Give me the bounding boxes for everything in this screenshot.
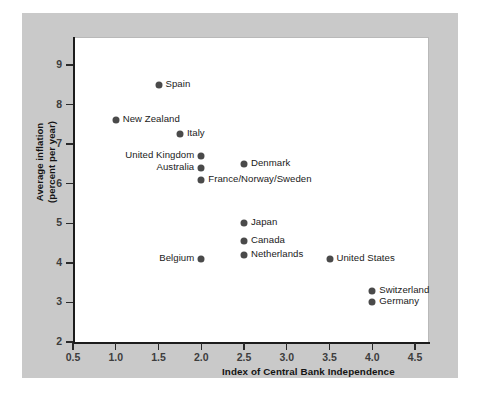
x-tick-label: 3.5 — [315, 351, 345, 363]
y-tick-label: 3 — [46, 295, 62, 307]
data-point-label: Switzerland — [379, 284, 429, 295]
y-tick-mark — [66, 223, 73, 224]
data-point-marker[interactable] — [241, 220, 248, 227]
data-point-label: Spain — [166, 78, 191, 89]
x-tick-label: 2.5 — [229, 351, 259, 363]
data-point-label: France/Norway/Sweden — [208, 173, 311, 184]
x-tick-label: 4.0 — [357, 351, 387, 363]
x-tick-mark — [243, 343, 244, 350]
y-tick-label: 2 — [46, 335, 62, 347]
y-tick-label: 9 — [46, 58, 62, 70]
data-point-marker[interactable] — [198, 164, 205, 171]
x-tick-label: 0.5 — [58, 351, 88, 363]
y-axis-title: Average inflation (percent per year) — [34, 82, 58, 242]
data-point-marker[interactable] — [198, 153, 205, 160]
y-tick-mark — [66, 302, 73, 303]
x-tick-mark — [414, 343, 415, 350]
data-point-marker[interactable] — [369, 287, 376, 294]
data-point-label: Japan — [251, 216, 277, 227]
y-tick-label: 4 — [46, 256, 62, 268]
data-point-marker[interactable] — [176, 131, 183, 138]
y-tick-mark — [66, 262, 73, 263]
data-point-label: Italy — [187, 127, 205, 138]
x-tick-mark — [286, 343, 287, 350]
data-point-marker[interactable] — [155, 81, 162, 88]
x-tick-mark — [329, 343, 330, 350]
data-point-marker[interactable] — [198, 176, 205, 183]
data-point-marker[interactable] — [241, 251, 248, 258]
y-tick-mark — [66, 104, 73, 105]
x-tick-mark — [158, 343, 159, 350]
data-point-marker[interactable] — [198, 255, 205, 262]
data-point-label: Canada — [251, 234, 285, 245]
x-tick-label: 1.5 — [144, 351, 174, 363]
x-tick-mark — [201, 343, 202, 350]
y-tick-mark — [66, 183, 73, 184]
x-tick-mark — [72, 343, 73, 350]
data-point-label: Belgium — [159, 252, 194, 263]
y-axis-title-line-2: (percent per year) — [46, 82, 58, 242]
data-point-marker[interactable] — [112, 117, 119, 124]
x-tick-label: 1.0 — [101, 351, 131, 363]
data-point-label: Denmark — [251, 157, 290, 168]
data-point-marker[interactable] — [326, 255, 333, 262]
x-tick-label: 4.5 — [400, 351, 430, 363]
x-axis-line — [73, 342, 430, 344]
y-tick-mark — [66, 64, 73, 65]
plot-canvas — [73, 37, 429, 342]
x-tick-mark — [372, 343, 373, 350]
data-point-label: United Kingdom — [125, 149, 194, 160]
x-tick-mark — [115, 343, 116, 350]
data-point-marker[interactable] — [369, 299, 376, 306]
data-point-label: United States — [337, 252, 395, 263]
y-axis-title-line-1: Average inflation — [34, 82, 46, 242]
y-axis-line — [73, 37, 75, 343]
x-axis-title: Index of Central Bank Independence — [222, 366, 395, 377]
data-point-label: Australia — [156, 161, 194, 172]
data-point-marker[interactable] — [241, 238, 248, 245]
data-point-marker[interactable] — [241, 160, 248, 167]
data-point-label: Germany — [379, 295, 419, 306]
data-point-label: Netherlands — [251, 248, 303, 259]
data-point-label: New Zealand — [123, 113, 180, 124]
x-tick-label: 3.0 — [272, 351, 302, 363]
y-tick-mark — [66, 143, 73, 144]
x-tick-label: 2.0 — [186, 351, 216, 363]
scatter-plot-figure: 23456789 0.51.01.52.02.53.03.54.04.5 Ave… — [0, 0, 477, 393]
